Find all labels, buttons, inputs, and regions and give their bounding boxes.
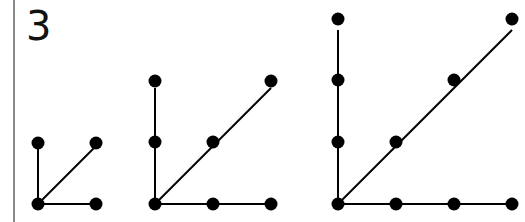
dot [506,13,519,26]
dot [149,75,162,88]
dot [332,13,345,26]
dot [207,136,220,149]
dot [390,136,403,149]
dot [506,198,519,211]
dot [332,198,345,211]
dot [448,198,461,211]
dot [149,136,162,149]
dot [90,137,103,150]
figure-3 [332,13,519,211]
dot-pattern-diagram [0,0,525,222]
dot [265,75,278,88]
dot [149,198,162,211]
dot [390,198,403,211]
dot [32,137,45,150]
dot [448,74,461,87]
dot [90,198,103,211]
diagonal-arm [38,146,96,204]
figure-2 [149,75,278,211]
dot [265,198,278,211]
dot [32,198,45,211]
figure-1 [32,137,103,211]
diagonal-arm [338,30,512,204]
dot [332,74,345,87]
dot [332,136,345,149]
dot [207,198,220,211]
